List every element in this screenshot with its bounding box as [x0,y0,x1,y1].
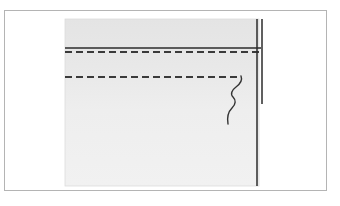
line-drawing-canvas [0,0,340,206]
figure-root: Light gray rectangular panel with a soli… [0,0,340,206]
gray-panel [65,19,259,186]
